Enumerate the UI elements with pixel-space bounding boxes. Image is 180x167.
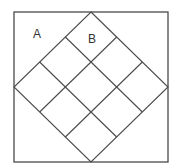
label-b: B bbox=[88, 32, 96, 46]
grid-line-u1 bbox=[40, 62, 117, 137]
label-a: A bbox=[33, 27, 41, 41]
diagram-svg: A B bbox=[0, 0, 180, 167]
grid-line-u2 bbox=[65, 37, 142, 112]
grid-line-v1 bbox=[40, 37, 117, 112]
grid-line-v2 bbox=[65, 62, 142, 137]
diagram-canvas: A B bbox=[0, 0, 180, 167]
diamond-grid-lines bbox=[40, 37, 143, 137]
